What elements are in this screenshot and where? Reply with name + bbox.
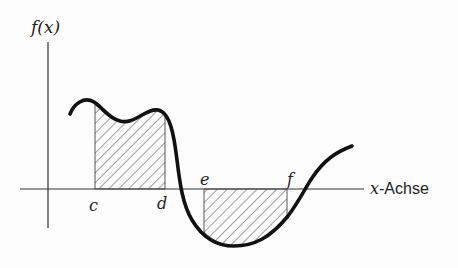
point-label-e: e bbox=[200, 170, 209, 189]
diagram-canvas bbox=[0, 0, 458, 268]
x-axis-label-text: -Achse bbox=[379, 180, 429, 197]
point-label-c: c bbox=[89, 196, 98, 215]
y-axis-label: f(x) bbox=[31, 17, 60, 37]
function-area-diagram: f(x) c d e f x-Achse bbox=[0, 0, 458, 268]
shaded-area-e-f bbox=[204, 189, 287, 246]
x-axis-label: x-Achse bbox=[370, 179, 429, 198]
point-label-d: d bbox=[157, 194, 167, 213]
shaded-area-c-d bbox=[95, 102, 165, 189]
x-axis-label-variable: x bbox=[370, 179, 379, 198]
point-label-f: f bbox=[287, 170, 293, 189]
